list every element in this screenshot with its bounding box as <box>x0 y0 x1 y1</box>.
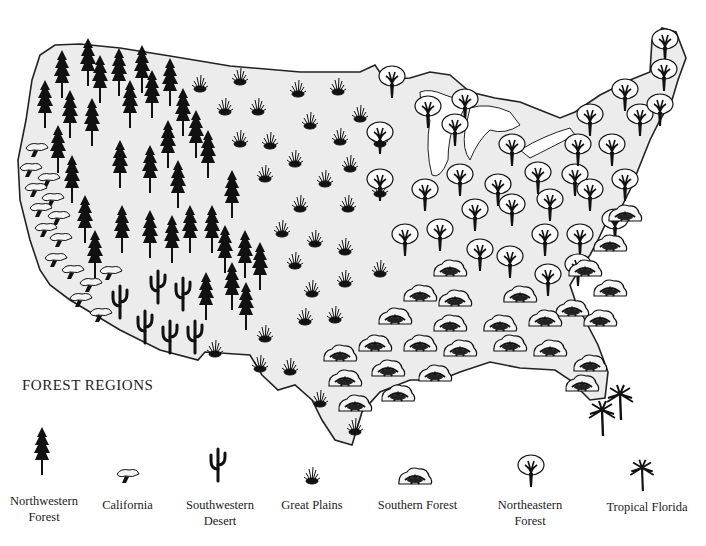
legend-item-northwestern: Northwestern Forest <box>4 493 84 525</box>
legend-item-southern: Southern Forest <box>370 497 465 513</box>
southern-shrub-tree-icon <box>396 466 434 490</box>
legend-label: Great Plains <box>272 497 352 513</box>
legend-item-great-plains: Great Plains <box>272 497 352 513</box>
legend-item-california: California <box>90 497 165 513</box>
legend-label: Southwestern Desert <box>180 497 260 529</box>
deciduous-tree-icon <box>516 452 546 490</box>
legend-item-tropical: Tropical Florida <box>602 499 692 515</box>
california-oak-icon <box>112 466 142 486</box>
legend-label: Southern Forest <box>370 497 465 513</box>
legend-title: FOREST REGIONS <box>22 377 153 394</box>
palm-tree-icon <box>627 458 657 492</box>
us-forest-regions-map <box>0 0 706 546</box>
legend-item-southwestern: Southwestern Desert <box>180 497 260 529</box>
legend-item-northeastern: Northeastern Forest <box>490 497 570 529</box>
legend-label: Tropical Florida <box>602 499 692 515</box>
legend-label: California <box>90 497 165 513</box>
conifer-tree-icon <box>30 425 54 485</box>
grass-tuft-icon <box>300 460 324 490</box>
legend-label: Northwestern Forest <box>4 493 84 525</box>
legend-label: Northeastern Forest <box>490 497 570 529</box>
saguaro-cactus-icon <box>206 445 230 487</box>
